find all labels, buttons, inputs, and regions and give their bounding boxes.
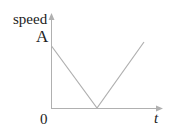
y-axis-arrow-icon: [49, 13, 55, 20]
speed-line: [52, 42, 145, 108]
x-axis-arrow-icon: [156, 106, 163, 112]
y-axis: [49, 13, 55, 108]
x-axis: [51, 106, 163, 112]
speed-time-graph: [0, 0, 172, 128]
